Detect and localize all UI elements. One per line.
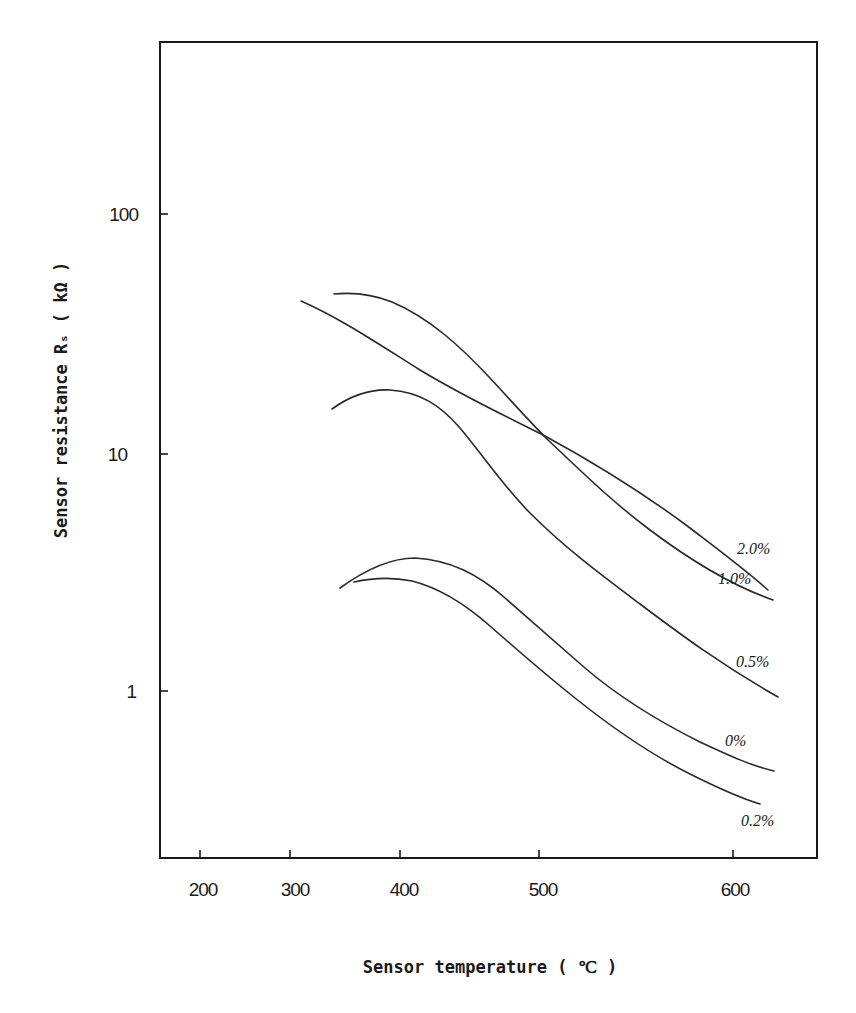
chart: 100 10 1 200 300 400 500 600 2.0% 1.0% 0… bbox=[0, 0, 856, 1013]
series-lines bbox=[301, 293, 778, 804]
plot-frame bbox=[160, 42, 817, 858]
x-axis-title: Sensor temperature ( ℃ ) bbox=[363, 957, 617, 977]
label-0-2-percent: 0.2% bbox=[741, 812, 774, 829]
curve-0-2-percent bbox=[354, 578, 760, 804]
x-tick-label-400: 400 bbox=[390, 879, 419, 900]
x-tick-label-600: 600 bbox=[721, 879, 750, 900]
curve-2-0-percent bbox=[301, 301, 768, 590]
y-tick-label-100: 100 bbox=[109, 204, 138, 225]
x-tick-label-200: 200 bbox=[189, 879, 218, 900]
curve-0-percent bbox=[340, 558, 774, 771]
label-0-percent: 0% bbox=[725, 732, 746, 749]
y-tick-label-1: 1 bbox=[126, 681, 136, 702]
y-axis: 100 10 1 bbox=[108, 204, 168, 702]
x-tick-label-500: 500 bbox=[529, 879, 558, 900]
label-2-0-percent: 2.0% bbox=[737, 540, 770, 557]
label-0-5-percent: 0.5% bbox=[736, 653, 769, 670]
y-tick-label-10: 10 bbox=[108, 444, 128, 465]
curve-1-0-percent bbox=[334, 293, 773, 600]
series-labels: 2.0% 1.0% 0.5% 0% 0.2% bbox=[718, 540, 774, 829]
y-axis-title: Sensor resistance Rₛ ( kΩ ) bbox=[51, 262, 71, 538]
x-tick-label-300: 300 bbox=[281, 879, 310, 900]
label-1-0-percent: 1.0% bbox=[718, 570, 751, 587]
